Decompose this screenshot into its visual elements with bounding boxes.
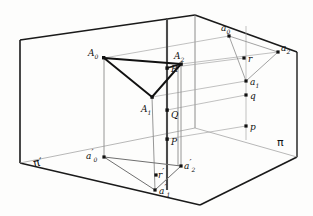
ray-A2-a2 <box>181 52 278 64</box>
point-a2 <box>276 50 279 53</box>
box-edge-floor-right <box>200 157 297 205</box>
label-r: r <box>248 54 253 64</box>
space-triangle-path <box>104 58 181 97</box>
label-Q: Q <box>171 110 179 120</box>
point-P <box>165 137 168 140</box>
point-q <box>244 93 247 96</box>
box-edge-back-top <box>20 15 195 40</box>
label-a0-prime: a′0 <box>86 148 97 163</box>
point-A0 <box>102 56 105 59</box>
label-plane-pi: π <box>277 136 284 149</box>
ray-Q-q <box>167 95 246 110</box>
space-triangle <box>104 58 181 97</box>
point-A1 <box>150 95 153 98</box>
label-a2-prime: a′2 <box>184 158 195 173</box>
label-A0: A0 <box>87 48 99 60</box>
label-A1: A1 <box>140 104 151 116</box>
label-a2: a2 <box>281 43 290 55</box>
label-A2: A2 <box>173 51 185 63</box>
label-a1: a1 <box>250 77 259 89</box>
point-a1 <box>244 79 247 82</box>
point-Q <box>165 108 168 111</box>
label-p: p <box>250 122 256 132</box>
label-R: R <box>170 64 178 74</box>
point-p <box>244 124 247 127</box>
box-edge-floor-left <box>20 163 200 205</box>
point-a2-prime <box>179 164 182 167</box>
point-A2 <box>179 62 182 65</box>
point-a0-prime <box>102 155 105 158</box>
figure-svg: A0 A1 A2 R Q P a0 a1 a2 r q p a′0 a′1 a′… <box>0 0 313 216</box>
ray-P-p <box>167 126 246 139</box>
label-q: q <box>250 91 256 101</box>
point-r <box>242 56 245 59</box>
point-R <box>165 66 168 69</box>
point-a0 <box>227 34 230 37</box>
geometry-figure: A0 A1 A2 R Q P a0 a1 a2 r q p a′0 a′1 a′… <box>0 0 313 216</box>
point-a1-prime <box>153 188 156 191</box>
label-P: P <box>170 137 178 147</box>
label-r-prime: r′ <box>158 167 164 180</box>
label-plane-pi-prime: π′ <box>32 155 44 170</box>
label-a1-prime: a′1 <box>159 183 170 198</box>
label-a0: a0 <box>221 23 230 35</box>
